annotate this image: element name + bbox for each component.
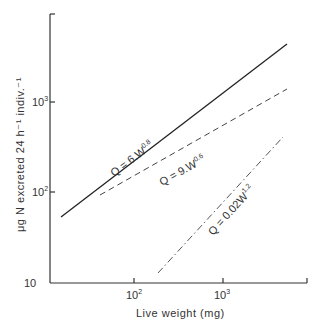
- chart-canvas: 10 102 103 102 103 Live weight (mg) μg N…: [0, 0, 320, 328]
- equation-label-dashdot: Q = 0.02W1.2: [205, 182, 257, 237]
- y-tick-label-1000: 103: [32, 95, 48, 108]
- y-axis-title: μg N excreted 24 h⁻¹ indiv.⁻¹: [14, 77, 26, 232]
- axes: [50, 14, 307, 283]
- x-tick-label-100: 102: [126, 288, 142, 301]
- series-dashed-q9w06: [100, 89, 287, 195]
- equation-label-solid: Q = 6.W0.8: [107, 138, 155, 179]
- series-solid-q6w08: [61, 44, 287, 217]
- x-tick-label-1000: 103: [214, 288, 230, 301]
- x-axis-title: Live weight (mg): [136, 307, 225, 319]
- y-tick-label-10: 10: [24, 277, 36, 289]
- y-tick-label-100: 102: [32, 185, 48, 198]
- series-dashdot-q002w12: [158, 137, 283, 273]
- equation-label-dashed: Q = 9.W0.6: [157, 152, 207, 188]
